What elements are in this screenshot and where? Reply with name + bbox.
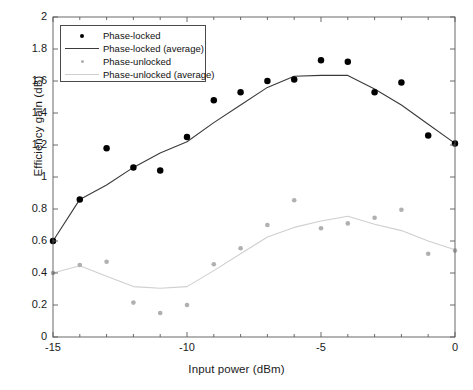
y-tick-label: 0.2 bbox=[7, 298, 47, 310]
data-point bbox=[265, 223, 270, 228]
data-point bbox=[425, 132, 431, 138]
legend-label: Phase-locked bbox=[103, 30, 161, 41]
data-point bbox=[399, 207, 404, 212]
x-tick-label: -15 bbox=[33, 341, 73, 353]
data-point bbox=[372, 215, 377, 220]
data-point bbox=[345, 59, 351, 65]
y-tick-label: 0.4 bbox=[7, 266, 47, 278]
x-tick-label: -5 bbox=[301, 341, 341, 353]
data-point bbox=[291, 76, 297, 82]
data-point bbox=[371, 89, 377, 95]
legend-label: Phase-unlocked (average) bbox=[103, 69, 214, 80]
x-tick-label: 0 bbox=[435, 341, 473, 353]
legend-line-icon bbox=[61, 48, 103, 49]
data-point bbox=[130, 164, 136, 170]
legend-line-icon bbox=[61, 74, 103, 75]
data-point bbox=[131, 300, 136, 305]
series-line bbox=[53, 75, 455, 241]
legend-marker-icon bbox=[61, 60, 103, 63]
data-point bbox=[184, 134, 190, 140]
legend-item[interactable]: Phase-locked bbox=[61, 29, 205, 42]
data-point bbox=[77, 263, 82, 268]
data-point bbox=[264, 78, 270, 84]
data-point bbox=[157, 167, 163, 173]
figure: 00.20.40.60.811.21.41.61.82 -15-10-50 Ef… bbox=[0, 0, 473, 390]
data-point bbox=[237, 89, 243, 95]
data-point bbox=[238, 246, 243, 251]
data-point bbox=[103, 145, 109, 151]
data-point bbox=[319, 226, 324, 231]
legend-label: Phase-unlocked bbox=[103, 56, 171, 67]
y-tick-label: 2 bbox=[7, 10, 47, 22]
legend-marker-icon bbox=[61, 34, 103, 38]
legend-item[interactable]: Phase-unlocked bbox=[61, 55, 205, 68]
legend-label: Phase-locked (average) bbox=[103, 43, 204, 54]
data-point bbox=[426, 251, 431, 256]
data-point bbox=[104, 259, 109, 264]
data-point bbox=[158, 311, 163, 316]
data-point bbox=[398, 79, 404, 85]
y-axis-title: Efficiency gain (dB) bbox=[32, 26, 44, 226]
data-point bbox=[77, 196, 83, 202]
y-tick-label: 0.6 bbox=[7, 234, 47, 246]
data-point bbox=[292, 198, 297, 203]
series-line bbox=[53, 216, 455, 288]
x-tick-label: -10 bbox=[167, 341, 207, 353]
data-point bbox=[211, 262, 216, 267]
legend-item[interactable]: Phase-unlocked (average) bbox=[61, 68, 205, 81]
data-point bbox=[345, 221, 350, 226]
data-layer bbox=[50, 57, 458, 315]
x-axis-title: Input power (dBm) bbox=[0, 363, 473, 375]
data-point bbox=[211, 97, 217, 103]
legend-item[interactable]: Phase-locked (average) bbox=[61, 42, 205, 55]
legend[interactable]: Phase-lockedPhase-locked (average)Phase-… bbox=[60, 25, 206, 82]
data-point bbox=[318, 57, 324, 63]
data-point bbox=[185, 303, 190, 308]
